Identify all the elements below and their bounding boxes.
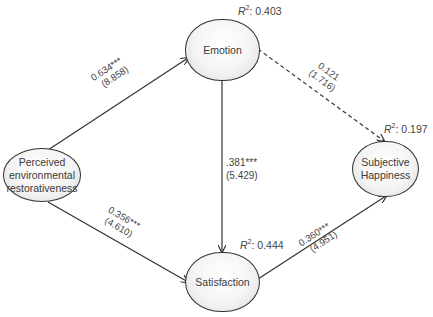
r2-satisfaction: R2: 0.444	[240, 238, 284, 251]
node-text-line: environmental	[6, 169, 77, 182]
node-subjective-happiness: Subjective Happiness	[352, 141, 419, 197]
node-text-line: restorativeness	[6, 182, 77, 195]
node-satisfaction: Satisfaction	[185, 252, 260, 312]
node-text-line: Subjective	[361, 156, 411, 169]
r2-happiness: R2: 0.197	[384, 122, 428, 135]
coef-emotion-satisfaction: .381*** (5.429)	[226, 157, 258, 181]
node-text-line: Happiness	[361, 169, 411, 182]
r2-emotion: R2: 0.403	[238, 4, 282, 17]
node-text: Satisfaction	[195, 276, 249, 289]
node-text-line: Perceived	[6, 156, 77, 169]
node-emotion: Emotion	[185, 19, 260, 81]
node-text: Emotion	[203, 44, 242, 57]
node-perceived-environmental-restorativeness: Perceived environmental restorativeness	[3, 148, 81, 202]
